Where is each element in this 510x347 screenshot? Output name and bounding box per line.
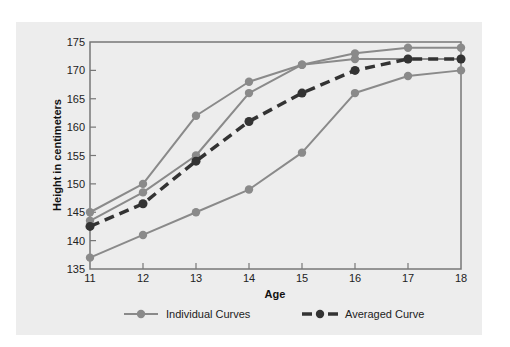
y-tick-label: 175 bbox=[67, 36, 85, 48]
data-point bbox=[192, 112, 200, 120]
data-point bbox=[139, 231, 147, 239]
x-tick-label: 17 bbox=[402, 272, 414, 284]
x-tick-label: 13 bbox=[190, 272, 202, 284]
y-axis-title: Height in centimeters bbox=[51, 99, 63, 211]
data-point bbox=[351, 89, 359, 97]
y-tick-label: 170 bbox=[67, 64, 85, 76]
data-point bbox=[139, 199, 148, 208]
y-tick-label: 135 bbox=[67, 263, 85, 275]
y-tick-label: 165 bbox=[67, 93, 85, 105]
legend-marker-icon bbox=[316, 310, 324, 318]
y-tick-label: 155 bbox=[67, 150, 85, 162]
x-tick-label: 15 bbox=[296, 272, 308, 284]
data-point bbox=[245, 185, 253, 193]
legend-label-average: Averaged Curve bbox=[345, 308, 424, 320]
y-axis: 135140145150155160165170175 bbox=[67, 36, 96, 275]
data-point bbox=[404, 43, 412, 51]
data-point bbox=[457, 55, 466, 64]
data-point bbox=[298, 60, 306, 68]
x-tick-label: 16 bbox=[349, 272, 361, 284]
series-layer bbox=[86, 43, 466, 261]
data-point bbox=[351, 49, 359, 57]
x-tick-label: 12 bbox=[137, 272, 149, 284]
line-chart: 135140145150155160165170175 111213141516… bbox=[0, 0, 510, 347]
data-point bbox=[86, 222, 95, 231]
legend: Individual Curves Averaged Curve bbox=[124, 308, 424, 320]
data-point bbox=[245, 89, 253, 97]
x-axis: 1112131415161718 bbox=[84, 263, 467, 284]
data-point bbox=[86, 208, 94, 216]
x-axis-title: Age bbox=[265, 288, 286, 300]
y-tick-label: 140 bbox=[67, 235, 85, 247]
y-tick-label: 160 bbox=[67, 121, 85, 133]
series-individual-curve bbox=[86, 43, 465, 224]
series-individual-curve bbox=[86, 66, 465, 262]
series-averaged-curve bbox=[86, 55, 466, 231]
series-line bbox=[90, 70, 461, 257]
data-point bbox=[457, 43, 465, 51]
data-point bbox=[351, 66, 360, 75]
data-point bbox=[404, 55, 413, 64]
y-tick-label: 150 bbox=[67, 178, 85, 190]
x-tick-label: 18 bbox=[455, 272, 467, 284]
x-tick-label: 11 bbox=[84, 272, 95, 284]
data-point bbox=[245, 117, 254, 126]
data-point bbox=[298, 89, 307, 98]
data-point bbox=[86, 253, 94, 261]
data-point bbox=[298, 148, 306, 156]
data-point bbox=[139, 180, 147, 188]
legend-marker-icon bbox=[137, 310, 145, 318]
legend-item-individual: Individual Curves bbox=[124, 308, 251, 320]
x-tick-label: 14 bbox=[243, 272, 255, 284]
data-point bbox=[404, 72, 412, 80]
y-tick-label: 145 bbox=[67, 206, 85, 218]
legend-item-average: Averaged Curve bbox=[302, 308, 424, 320]
data-point bbox=[192, 157, 201, 166]
data-point bbox=[245, 78, 253, 86]
legend-label-individual: Individual Curves bbox=[166, 308, 251, 320]
data-point bbox=[139, 188, 147, 196]
data-point bbox=[457, 66, 465, 74]
data-point bbox=[192, 208, 200, 216]
